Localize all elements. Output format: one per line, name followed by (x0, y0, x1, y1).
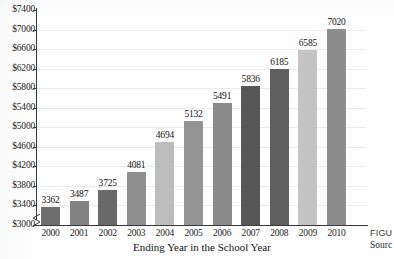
bar-value-label: 6585 (291, 38, 325, 48)
bar (241, 86, 260, 225)
y-axis-tick-label: $6600 (1, 44, 35, 54)
y-axis-tick-label: $7000 (1, 25, 35, 35)
y-axis-tick-label: $3800 (1, 181, 35, 191)
y-axis-tick (33, 69, 37, 70)
y-axis-line (36, 8, 37, 220)
y-axis-tick-label: $7400 (1, 5, 35, 15)
chart-figure: $7400$7000$6600$6200$5800$5400$5000$4600… (0, 0, 394, 259)
y-axis-tick (33, 30, 37, 31)
gridline (36, 30, 366, 31)
bar (270, 69, 289, 225)
bar-value-label: 4081 (119, 160, 153, 170)
bar-value-label: 7020 (320, 17, 354, 27)
bar (298, 50, 317, 225)
y-axis-tick (33, 186, 37, 187)
bar-value-label: 4694 (148, 130, 182, 140)
bar-value-label: 5132 (177, 109, 211, 119)
bar (184, 121, 203, 225)
y-axis-tick (33, 88, 37, 89)
figure-tag: FIGU (370, 228, 392, 238)
y-axis-tick (33, 225, 37, 226)
y-axis-tick-label: $5000 (1, 122, 35, 132)
y-axis-tick-label: $3400 (1, 200, 35, 210)
y-axis-tick-label: $5400 (1, 103, 35, 113)
x-axis-title: Ending Year in the School Year (36, 241, 368, 253)
bar-value-label: 5491 (205, 91, 239, 101)
y-axis-tick-label: $4200 (1, 161, 35, 171)
y-axis-tick-label: $6200 (1, 64, 35, 74)
bar (213, 103, 232, 225)
x-axis-tick-label: 2010 (320, 228, 354, 238)
bar-value-label: 6185 (262, 57, 296, 67)
bar-value-label: 3725 (91, 178, 125, 188)
bar (155, 142, 174, 225)
y-axis-tick (33, 205, 37, 206)
bar-value-label: 3487 (62, 189, 96, 199)
bar-value-label: 5836 (234, 74, 268, 84)
source-tag: Sourc (370, 240, 392, 250)
bar (98, 190, 117, 225)
y-axis-tick (33, 10, 37, 11)
bar (327, 29, 346, 225)
y-axis-tick-label: $4600 (1, 142, 35, 152)
bar (41, 207, 60, 225)
y-axis-tick-label: $5800 (1, 83, 35, 93)
y-axis-tick (33, 147, 37, 148)
x-axis-line (36, 225, 368, 226)
y-axis-tick (33, 49, 37, 50)
y-axis-tick (33, 108, 37, 109)
y-axis-tick (33, 127, 37, 128)
y-axis-tick (33, 166, 37, 167)
bar (127, 172, 146, 225)
bar (70, 201, 89, 225)
